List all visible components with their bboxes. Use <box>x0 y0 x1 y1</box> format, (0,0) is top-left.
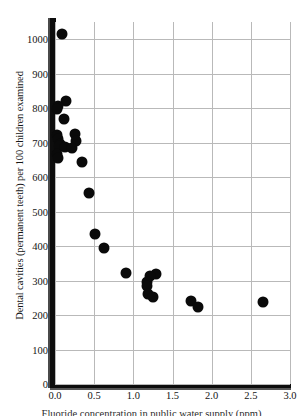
x-axis-tick-label: 0.0 <box>35 390 75 401</box>
data-point <box>59 114 70 125</box>
y-axis-tick-labels: 01002003004005006007008009001000 <box>0 0 48 416</box>
gridline-vertical <box>133 22 134 384</box>
data-point <box>257 296 268 307</box>
x-axis-tick-label: 1.0 <box>113 390 153 401</box>
y-axis-tick-label: 600 <box>4 172 48 183</box>
y-axis-tick-label: 200 <box>4 310 48 321</box>
data-point <box>53 153 64 164</box>
x-axis-tick-label: 2.5 <box>231 390 271 401</box>
gridline-vertical <box>251 22 252 384</box>
data-point <box>147 292 158 303</box>
scatter-chart-figure: Dental cavities (permanent teeth) per 10… <box>0 0 303 416</box>
data-point <box>193 301 204 312</box>
y-axis-tick-label: 900 <box>4 68 48 79</box>
x-axis-tick-label: 1.5 <box>153 390 193 401</box>
gridline-vertical <box>173 22 174 384</box>
y-axis-tick-label: 1000 <box>4 34 48 45</box>
gridline-horizontal <box>55 384 290 385</box>
x-axis-tick-label: 2.0 <box>192 390 232 401</box>
data-point <box>57 29 68 40</box>
x-axis-tick-label: 0.5 <box>74 390 114 401</box>
gridline-vertical <box>212 22 213 384</box>
data-point <box>89 228 100 239</box>
y-axis-tick-label: 100 <box>4 344 48 355</box>
gridline-vertical <box>55 22 56 384</box>
data-point <box>84 187 95 198</box>
data-point <box>99 243 110 254</box>
y-axis-tick-label: 0 <box>4 379 48 390</box>
x-axis-title: Fluoride concentration in public water s… <box>0 407 303 416</box>
data-point <box>67 142 78 153</box>
data-point <box>76 156 87 167</box>
data-point <box>51 104 62 115</box>
x-axis-tick-label: 3.0 <box>270 390 303 401</box>
gridline-vertical <box>290 22 291 384</box>
y-axis-tick-label: 300 <box>4 275 48 286</box>
data-point <box>121 267 132 278</box>
plot-area <box>55 22 290 384</box>
y-axis-tick-label: 500 <box>4 206 48 217</box>
y-axis-tick-label: 700 <box>4 137 48 148</box>
y-axis-tick-label: 400 <box>4 241 48 252</box>
gridline-vertical <box>94 22 95 384</box>
y-axis-tick-label: 800 <box>4 103 48 114</box>
